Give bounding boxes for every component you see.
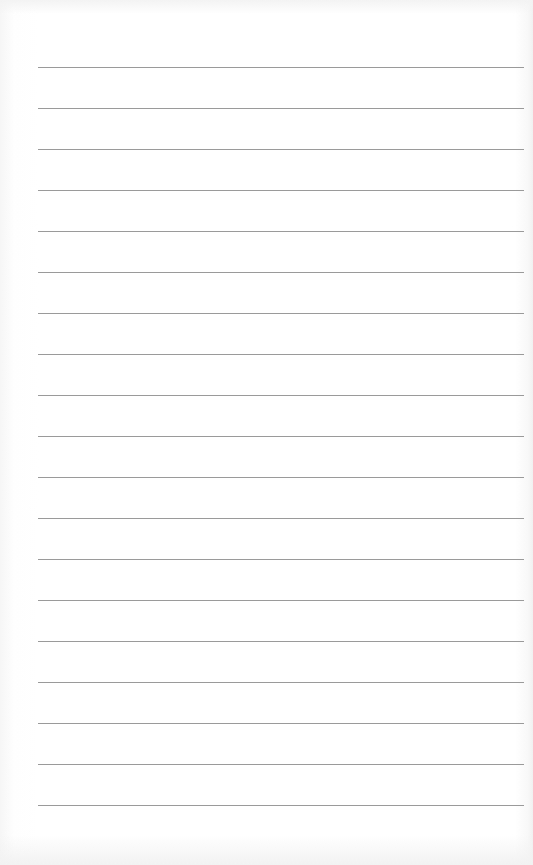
- ruled-line: [38, 395, 524, 396]
- ruled-line: [38, 108, 524, 109]
- ruled-line: [38, 600, 524, 601]
- ruled-line: [38, 682, 524, 683]
- ruled-line: [38, 231, 524, 232]
- ruled-line: [38, 67, 524, 68]
- ruled-line: [38, 518, 524, 519]
- ruled-line: [38, 723, 524, 724]
- lined-paper-sheet: [0, 0, 533, 865]
- ruled-line: [38, 272, 524, 273]
- ruled-line: [38, 313, 524, 314]
- ruled-line: [38, 436, 524, 437]
- ruled-line: [38, 354, 524, 355]
- ruled-line: [38, 805, 524, 806]
- ruled-line: [38, 190, 524, 191]
- ruled-line: [38, 764, 524, 765]
- ruled-line: [38, 149, 524, 150]
- ruled-line: [38, 477, 524, 478]
- ruled-line: [38, 641, 524, 642]
- ruled-line: [38, 559, 524, 560]
